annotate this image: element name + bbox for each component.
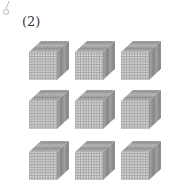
problem-label: (2): [22, 14, 40, 29]
pen-mark-icon: [2, 0, 12, 18]
thousand-cube-icon: [73, 138, 117, 182]
thousand-cube-icon: [73, 87, 117, 131]
thousand-cube-icon: [73, 38, 117, 82]
thousand-cube-icon: [27, 138, 71, 182]
thousand-cube-icon: [119, 38, 163, 82]
thousand-cube-icon: [27, 38, 71, 82]
thousand-cube-icon: [119, 138, 163, 182]
thousand-cube-icon: [119, 87, 163, 131]
thousand-cube-icon: [27, 87, 71, 131]
